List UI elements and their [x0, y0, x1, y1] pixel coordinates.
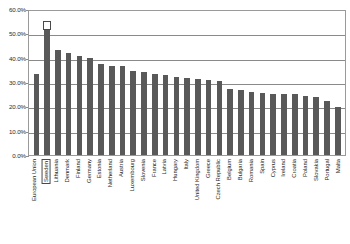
bar-slot	[139, 11, 150, 155]
x-tick-label: Slovenia	[141, 159, 147, 181]
y-tick-label: 0.0%	[0, 153, 26, 159]
bar[interactable]	[55, 50, 61, 155]
bar-slot	[74, 11, 85, 155]
x-label-slot: Malta	[333, 157, 344, 243]
x-label-slot: Sweden	[41, 157, 52, 243]
y-tick-label: 60.0%	[0, 7, 26, 13]
x-label-slot: Poland	[301, 157, 312, 243]
bar[interactable]	[141, 72, 147, 155]
bar-slot	[182, 11, 193, 155]
bar-highlight-box	[43, 21, 51, 30]
x-label-slot: Belgium	[225, 157, 236, 243]
bar-slot	[192, 11, 203, 155]
bar-slot	[96, 11, 107, 155]
x-tick-label: Portugal	[325, 159, 331, 181]
bar-slot	[322, 11, 333, 155]
bar[interactable]	[109, 66, 115, 155]
bar[interactable]	[227, 89, 233, 155]
bar[interactable]	[130, 71, 136, 155]
bar[interactable]	[77, 56, 83, 155]
bar[interactable]	[184, 78, 190, 155]
x-label-slot: Hungary	[171, 157, 182, 243]
x-tick-label: United Kingdom	[195, 159, 201, 200]
y-axis: 0.0%10.0%20.0%30.0%40.0%50.0%60.0%	[0, 10, 26, 156]
bar-slot	[236, 11, 247, 155]
x-tick-label: Denmark	[65, 159, 71, 183]
y-tick-label: 40.0%	[0, 56, 26, 62]
x-label-slot: Portugal	[322, 157, 333, 243]
bar-slot	[117, 11, 128, 155]
x-label-slot: Bulgaria	[236, 157, 247, 243]
bar[interactable]	[292, 94, 298, 155]
bar[interactable]	[174, 77, 180, 155]
bar[interactable]	[324, 101, 330, 155]
bar[interactable]	[152, 74, 158, 155]
bar[interactable]	[163, 75, 169, 155]
bar[interactable]	[206, 80, 212, 155]
x-axis: European UnionSwedenLithuaniaDenmarkFinl…	[28, 157, 346, 243]
plot-area	[28, 10, 346, 156]
x-tick-label: Slovakia	[314, 159, 320, 181]
x-label-slot: Romania	[247, 157, 258, 243]
x-tick-label: Hungary	[173, 159, 179, 181]
x-label-slot: France	[149, 157, 160, 243]
bar-slot	[268, 11, 279, 155]
y-tick-label: 20.0%	[0, 104, 26, 110]
x-label-slot: Germany	[84, 157, 95, 243]
x-tick-label: Luxembourg	[130, 159, 136, 191]
bar[interactable]	[87, 58, 93, 155]
bar[interactable]	[281, 94, 287, 155]
x-tick-label: Cyprus	[271, 159, 277, 177]
bar[interactable]	[303, 96, 309, 155]
x-tick-label: Czech Republic	[217, 159, 223, 200]
x-tick-label: Croatia	[292, 159, 298, 178]
x-tick-label: Romania	[249, 159, 255, 182]
bar[interactable]	[335, 107, 341, 155]
bar[interactable]	[270, 94, 276, 155]
x-tick-label: Germany	[87, 159, 93, 183]
x-label-slot: Ireland	[279, 157, 290, 243]
bar[interactable]	[238, 90, 244, 155]
bar[interactable]	[313, 97, 319, 155]
x-label-slot: Spain	[257, 157, 268, 243]
x-label-slot: Slovenia	[138, 157, 149, 243]
bar[interactable]	[195, 79, 201, 155]
bar-slot	[311, 11, 322, 155]
x-tick-label: Netherland	[108, 159, 114, 187]
x-label-slot: Croatia	[290, 157, 301, 243]
bar-slot	[300, 11, 311, 155]
bar-slot	[53, 11, 64, 155]
x-label-slot: Luxembourg	[127, 157, 138, 243]
x-tick-label: Greece	[206, 159, 212, 178]
x-label-slot: Denmark	[62, 157, 73, 243]
bar[interactable]	[66, 53, 72, 155]
bar[interactable]	[34, 74, 40, 155]
x-label-slot: Greece	[203, 157, 214, 243]
x-tick-label: Bulgaria	[238, 159, 244, 180]
bar-slot	[63, 11, 74, 155]
bar-slot	[225, 11, 236, 155]
bar[interactable]	[98, 64, 104, 155]
x-label-slot: Estonia	[95, 157, 106, 243]
bar[interactable]	[44, 29, 50, 155]
x-label-slot: Czech Republic	[214, 157, 225, 243]
x-tick-label: Sweden	[42, 159, 51, 184]
x-label-slot: Latvia	[160, 157, 171, 243]
bar[interactable]	[120, 66, 126, 155]
bar-slot	[85, 11, 96, 155]
bar[interactable]	[260, 93, 266, 155]
x-label-slot: United Kingdom	[192, 157, 203, 243]
x-tick-label: Lithuania	[54, 159, 60, 182]
bar-series	[29, 11, 345, 155]
x-label-slot: Finland	[73, 157, 84, 243]
x-label-slot: Lithuania	[52, 157, 63, 243]
x-label-slot: Netherland	[106, 157, 117, 243]
x-label-slot: European Union	[30, 157, 41, 243]
bar-slot	[279, 11, 290, 155]
bar-slot	[257, 11, 268, 155]
bar[interactable]	[217, 81, 223, 155]
y-tick-label: 10.0%	[0, 129, 26, 135]
x-label-slot: Cyprus	[268, 157, 279, 243]
bar-slot	[160, 11, 171, 155]
bar[interactable]	[249, 92, 255, 155]
